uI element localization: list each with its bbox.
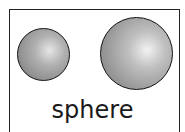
small-sphere bbox=[17, 28, 70, 81]
large-sphere bbox=[100, 17, 173, 90]
figure-label: sphere bbox=[0, 96, 185, 124]
